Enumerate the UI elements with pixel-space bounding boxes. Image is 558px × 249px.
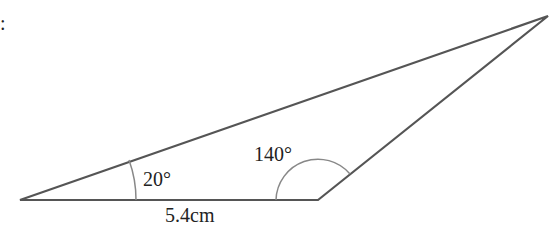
angle-arc-right [276,159,350,200]
triangle [20,16,548,200]
angle-label-right: 140° [254,143,292,165]
angle-label-left: 20° [143,168,171,190]
corner-mark: : [0,12,6,34]
base-length-label: 5.4cm [165,204,215,226]
angle-arc-left [129,160,136,200]
triangle-diagram: : 20° 140° 5.4cm [0,0,558,249]
